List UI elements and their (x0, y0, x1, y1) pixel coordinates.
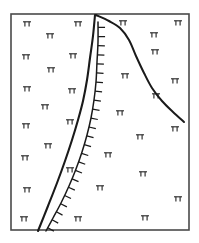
geologic-map-svg (0, 0, 199, 243)
figure-root (0, 0, 199, 243)
hachure-tick (96, 82, 103, 83)
map-frame-border (11, 14, 189, 230)
hachure-tick (95, 91, 102, 92)
